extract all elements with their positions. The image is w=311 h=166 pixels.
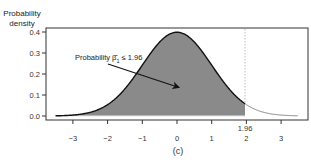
annotation-prefix: Probability [75,53,112,62]
x-tick-label: −3 [69,134,78,143]
y-tick-label: 0.1 [30,91,40,100]
density-chart: 0.00.10.20.30.4 −3−2−10123 Probability β… [0,0,311,166]
critical-value-label: 1.96 [238,124,253,133]
y-axis: 0.00.10.20.30.4 [30,28,46,121]
shaded-probability-area [56,32,245,116]
x-tick-label: −2 [103,134,112,143]
y-tick-label: 0.3 [30,49,40,58]
annotation-text: Probability β̂1 ≤ 1.96 [75,53,142,64]
annotation-suffix: ≤ 1.96 [120,53,143,62]
y-tick-label: 0.4 [30,28,40,37]
x-tick-label: −1 [138,134,147,143]
x-tick-label: 1 [210,134,214,143]
figure-caption: (c) [166,146,190,156]
y-tick-label: 0.2 [30,70,40,79]
x-tick-label: 0 [175,134,179,143]
x-tick-label: 2 [244,134,248,143]
y-tick-label: 0.0 [30,112,40,121]
x-tick-label: 3 [279,134,283,143]
